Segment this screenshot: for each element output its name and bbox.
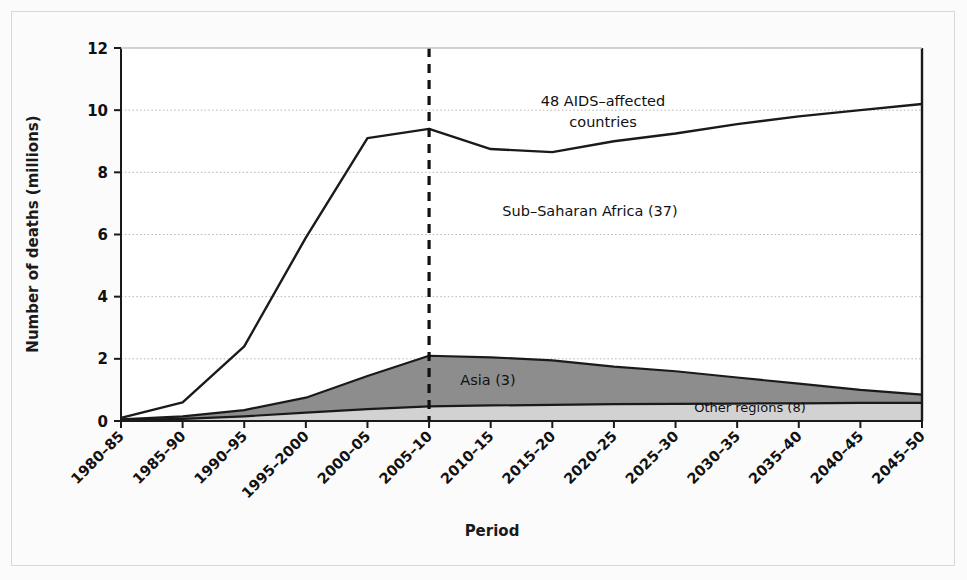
annotation-sub-saharan-africa: Sub–Saharan Africa (37) [502, 203, 677, 219]
y-axis-ticks [114, 48, 121, 421]
x-tick-label: 2030–35 [684, 428, 743, 487]
x-axis-ticks [121, 421, 922, 428]
x-tick-label: 1990–95 [191, 428, 250, 487]
x-tick-label: 2005–10 [376, 428, 435, 487]
x-tick-label: 2020–25 [561, 428, 620, 487]
x-axis-title: Period [465, 522, 520, 540]
x-tick-label: 2040–45 [807, 428, 866, 487]
x-tick-label: 2010–15 [438, 428, 497, 487]
y-tick-label: 8 [98, 164, 108, 182]
y-axis-tick-labels: 024681012 [87, 40, 108, 431]
y-tick-label: 10 [87, 102, 108, 120]
annotation-total-line2: countries [569, 114, 636, 130]
y-axis-title: Number of deaths (millions) [24, 115, 42, 352]
x-tick-label: 1980–85 [68, 428, 127, 487]
deaths-projection-chart: 024681012 1980–851985–901990–951995–2000… [0, 0, 967, 580]
x-tick-label: 1985–90 [129, 428, 188, 487]
x-tick-label: 2035–40 [746, 428, 805, 487]
y-tick-label: 6 [98, 226, 108, 244]
x-tick-label: 2025–30 [622, 428, 681, 487]
annotation-other-regions: Other regions (8) [694, 400, 805, 415]
y-tick-label: 0 [98, 413, 108, 431]
annotation-total-line1: 48 AIDS–affected [541, 93, 665, 109]
x-tick-label: 2045–50 [869, 428, 928, 487]
y-tick-label: 4 [98, 288, 108, 306]
x-axis-tick-labels: 1980–851985–901990–951995–20002000–05200… [68, 428, 928, 502]
y-tick-label: 12 [87, 40, 108, 58]
x-tick-label: 2000–05 [314, 428, 373, 487]
y-tick-label: 2 [98, 350, 108, 368]
x-tick-label: 2015–20 [499, 428, 558, 487]
annotation-asia: Asia (3) [460, 372, 516, 388]
chart-page: 024681012 1980–851985–901990–951995–2000… [0, 0, 967, 580]
